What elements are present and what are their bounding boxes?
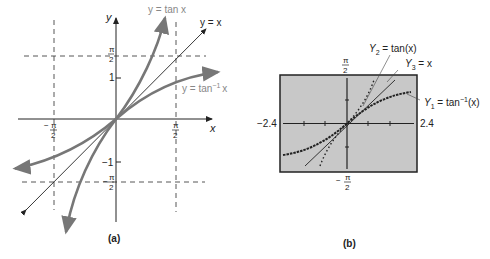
x-tick-neg-pi2-sign: − [44,121,49,130]
x-tick-pi2-den: 2 [173,131,178,140]
ymin-den: 2 [345,183,350,192]
x-tick-neg-pi2-den: 2 [51,131,56,140]
figure: y x π 2 1 −1 π − 2 − π 2 π 2 y = tan x y… [0,0,490,259]
y-tick-one-label: 1 [109,72,115,83]
y-tick-neg-one-label: −1 [102,157,114,168]
x-tick-neg-pi2-num: π [51,121,57,130]
y-axis-label: y [105,11,113,23]
ymin-sign: − [336,176,341,185]
y-tick-neg-pi2-sign: − [103,177,108,186]
panel-a: y x π 2 1 −1 π − 2 − π 2 π 2 y = tan x y… [15,4,227,244]
label-identity: y = x [200,17,221,28]
x-tick-pi2-num: π [173,121,179,130]
y-tick-neg-pi2-num: π [109,173,115,182]
label-y2: Y2 = tan(x) [369,43,417,56]
ymin-num: π [345,173,351,182]
panel-b: π 2 − π 2 −2.4 2.4 Y2 = tan(x) Y3 = x Y1… [257,43,480,249]
xmin-label: −2.4 [257,118,277,129]
caption-b: (b) [343,238,356,249]
ymax-den: 2 [343,66,348,75]
label-arctan: y = tan−1x [182,82,227,94]
caption-a: (a) [108,233,120,244]
y-tick-pi2-num: π [109,45,115,54]
y-tick-neg-pi2-den: 2 [109,183,114,192]
y-tick-pi2-den: 2 [109,55,114,64]
label-tan: y = tan x [148,4,186,15]
xmax-label: 2.4 [420,118,434,129]
label-y1: Y1 = tan−1(x) [424,96,480,110]
x-axis-label: x [209,122,216,134]
label-y3: Y3 = x [405,58,432,71]
ymax-num: π [343,56,349,65]
